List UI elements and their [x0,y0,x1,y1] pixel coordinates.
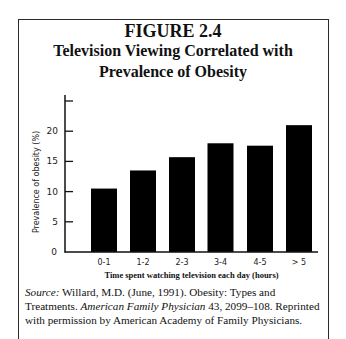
x-category-label: 1-2 [128,258,158,267]
bar-> 5 [286,125,312,252]
bar-1-2 [130,170,156,252]
x-category-label: 4-5 [245,258,275,267]
bars [91,125,312,252]
y-tick-label: 20 [38,126,58,136]
x-axis-title: Time spent watching television each day … [65,270,318,280]
bar-0-1 [91,189,117,252]
source-journal: American Family Physician [81,300,206,312]
x-category-label: 2-3 [167,258,197,267]
x-category-label: 0-1 [89,258,119,267]
y-tick-label: 5 [38,217,58,227]
y-tick-label: 0 [37,247,57,257]
x-category-label: > 5 [284,258,314,267]
bar-3-4 [208,143,234,252]
bar-2-3 [169,157,195,252]
y-tick-label: 10 [38,187,58,197]
source-label: Source: [25,286,59,298]
bar-4-5 [247,146,273,252]
source-citation: Source: Willard, M.D. (June, 1991). Obes… [25,285,330,327]
x-category-label: 3-4 [206,258,236,267]
y-ticks [65,101,73,222]
y-tick-label: 15 [38,156,58,166]
